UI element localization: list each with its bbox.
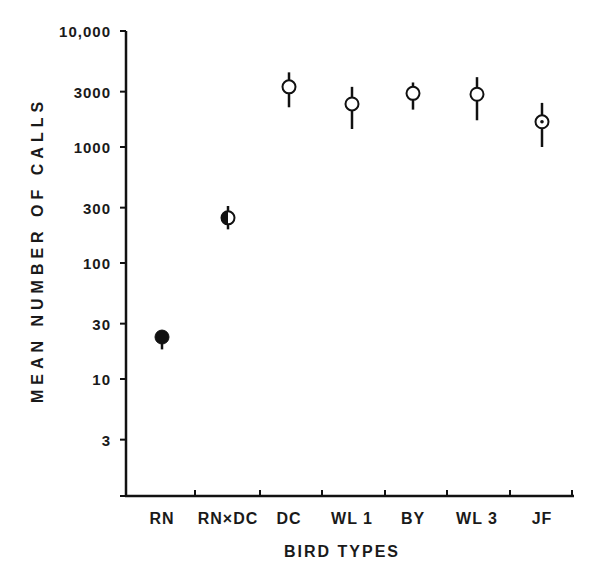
y-tick-label: 100 — [83, 255, 111, 272]
marker-open — [283, 80, 296, 93]
marker-filled — [155, 330, 169, 344]
y-tick-label: 3 — [102, 431, 111, 448]
y-axis-title: MEAN NUMBER OF CALLS — [29, 97, 47, 403]
marker-open — [471, 88, 484, 101]
x-tick-label: BY — [401, 510, 425, 528]
x-tick-label: JF — [532, 510, 553, 528]
x-axis-title: BIRD TYPES — [284, 543, 400, 561]
marker-open — [346, 97, 359, 110]
y-tick-label: 10,000 — [59, 23, 111, 40]
x-tick-label: DC — [276, 510, 301, 528]
x-tick-label: WL 3 — [456, 510, 498, 528]
x-tick-label: RN×DC — [198, 510, 259, 528]
y-tick-label: 30 — [92, 315, 111, 332]
y-tick-label: 1000 — [74, 139, 111, 156]
y-tick-label: 3000 — [74, 83, 111, 100]
marker-open — [407, 87, 420, 100]
x-tick-label: RN — [149, 510, 174, 528]
x-tick-label: WL 1 — [331, 510, 373, 528]
chart: 10,0003000100030010030103 RNRN×DCDCWL 1B… — [0, 0, 589, 583]
y-tick-label: 300 — [83, 199, 111, 216]
marker-center-dot — [540, 120, 544, 124]
y-tick-label: 10 — [92, 371, 111, 388]
